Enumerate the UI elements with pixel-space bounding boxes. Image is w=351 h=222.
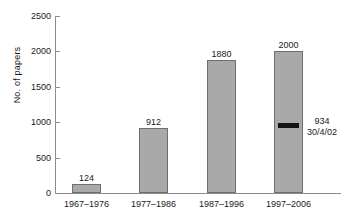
- y-tick-2000: 2000: [55, 51, 60, 52]
- bar-value-label: 2000: [278, 40, 298, 50]
- bar-chart-figure: No. of papers 0 500 1000 1500 2000 2500: [0, 0, 351, 222]
- y-tick-mark: [55, 51, 60, 52]
- y-tick-0: 0: [55, 193, 60, 194]
- x-tick-label-1967-1976: 1967–1976: [64, 199, 109, 209]
- y-tick-label: 1500: [31, 82, 51, 92]
- bar-1997-2006: 2000: [274, 51, 303, 193]
- y-tick-label: 2000: [31, 46, 51, 56]
- plot-area: 0 500 1000 1500 2000 2500 124 912: [55, 17, 341, 194]
- x-tick-label-1997-2006: 1997–2006: [266, 199, 311, 209]
- y-tick-500: 500: [55, 158, 60, 159]
- y-tick-label: 0: [46, 188, 51, 198]
- y-tick-label: 500: [36, 153, 51, 163]
- y-tick-1500: 1500: [55, 87, 60, 88]
- y-tick-1000: 1000: [55, 122, 60, 123]
- partial-count-value: 934: [307, 116, 337, 127]
- y-tick-mark: [55, 87, 60, 88]
- y-tick-mark: [55, 158, 60, 159]
- partial-count-date: 30/4/02: [307, 127, 337, 138]
- y-tick-label: 1000: [31, 117, 51, 127]
- partial-count-annotation: 934 30/4/02: [307, 116, 337, 138]
- y-axis-label: No. of papers: [12, 20, 22, 130]
- bar-1987-1996: 1880: [207, 60, 236, 193]
- y-tick-mark: [55, 122, 60, 123]
- bar-value-label: 912: [146, 117, 161, 127]
- bar-1967-1976: 124: [72, 184, 101, 193]
- y-tick-mark: [55, 193, 60, 194]
- y-tick-mark: [55, 16, 60, 17]
- y-tick-label: 2500: [31, 11, 51, 21]
- y-tick-2500: 2500: [55, 16, 60, 17]
- partial-count-marker: [278, 123, 299, 128]
- bar-1977-1986: 912: [139, 128, 168, 193]
- x-tick-label-1987-1996: 1987–1996: [199, 199, 244, 209]
- bar-value-label: 124: [79, 173, 94, 183]
- bar-value-label: 1880: [211, 49, 231, 59]
- x-axis-spine: [55, 193, 341, 194]
- x-tick-label-1977-1986: 1977–1986: [131, 199, 176, 209]
- y-axis-spine: [55, 17, 56, 194]
